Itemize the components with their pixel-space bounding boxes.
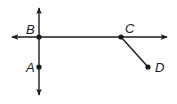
label-d: D xyxy=(155,60,164,75)
label-a: A xyxy=(25,60,35,75)
label-b: B xyxy=(26,22,35,37)
point-a xyxy=(36,64,41,69)
point-d xyxy=(145,64,150,69)
geometry-diagram: B A C D xyxy=(0,0,177,104)
label-c: C xyxy=(125,21,135,36)
point-c xyxy=(118,34,123,39)
segment-cd xyxy=(121,37,148,67)
point-b xyxy=(36,34,41,39)
